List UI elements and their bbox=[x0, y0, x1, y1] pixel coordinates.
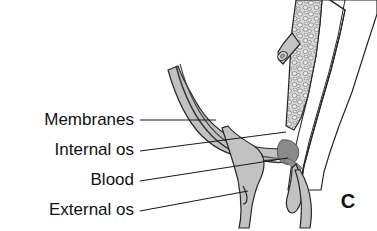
label-membranes: Membranes bbox=[44, 110, 134, 129]
panel-letter: C bbox=[341, 190, 355, 212]
placenta bbox=[286, 0, 322, 130]
blood-collection bbox=[277, 140, 302, 173]
leader-line-external-os bbox=[140, 191, 248, 211]
uterine-wall-left bbox=[168, 66, 286, 160]
figure-container: Membranes Internal os Blood External os … bbox=[0, 0, 377, 231]
cervical-lip-anterior bbox=[222, 126, 264, 228]
annotation-labels: Membranes Internal os Blood External os bbox=[44, 110, 134, 219]
anatomy-illustration: Membranes Internal os Blood External os … bbox=[0, 0, 377, 231]
leader-line-blood bbox=[140, 158, 288, 181]
label-external-os: External os bbox=[49, 200, 134, 219]
label-blood: Blood bbox=[91, 170, 134, 189]
label-internal-os: Internal os bbox=[55, 140, 134, 159]
